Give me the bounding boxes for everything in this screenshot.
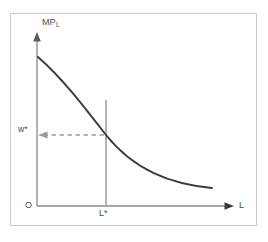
y-axis-label: MPL	[42, 17, 59, 27]
x-axis-label: L	[239, 200, 244, 210]
x-axis	[37, 202, 234, 210]
wage-dashed-line	[38, 131, 104, 138]
y-axis-label-subscript: L	[56, 21, 60, 28]
y-axis-label-main: MP	[42, 17, 56, 27]
labour-equilibrium-label: L*	[99, 208, 108, 218]
mpl-curve	[38, 57, 212, 188]
wage-equilibrium-label: w*	[18, 124, 27, 134]
figure-root: MPL O L* L w*	[0, 0, 268, 242]
marginal-product-of-labour-chart	[0, 0, 268, 242]
origin-label: O	[25, 200, 32, 210]
